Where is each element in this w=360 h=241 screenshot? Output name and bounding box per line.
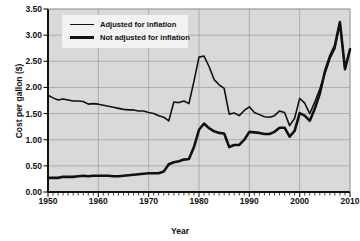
x-tick-label: 1970 <box>129 196 169 206</box>
legend-item-label: Adjusted for inflation <box>100 20 176 29</box>
legend-item-label: Not adjusted for inflation <box>100 33 190 42</box>
chart-legend: Adjusted for inflationNot adjusted for i… <box>62 15 188 48</box>
x-tick-label: 2000 <box>280 196 320 206</box>
legend-swatch-line-icon <box>70 24 94 26</box>
x-axis-title: Year <box>0 226 360 236</box>
gas-price-line-chart: Cost per gallon ($) 0.000.501.001.502.00… <box>0 0 360 241</box>
x-tick-label: 2010 <box>330 196 360 206</box>
x-tick-label: 1960 <box>78 196 118 206</box>
x-tick-label: 1980 <box>179 196 219 206</box>
legend-item: Not adjusted for inflation <box>70 33 190 42</box>
x-tick-label: 1990 <box>229 196 269 206</box>
legend-swatch-line-icon <box>70 36 94 39</box>
x-tick-label: 1950 <box>28 196 68 206</box>
legend-item: Adjusted for inflation <box>70 20 176 29</box>
